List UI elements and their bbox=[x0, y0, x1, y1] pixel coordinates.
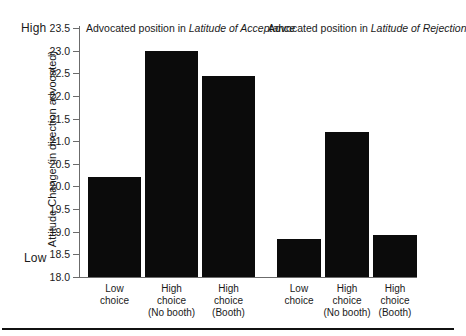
y-tick-label: 22.5 bbox=[44, 68, 70, 79]
y-tick-mark bbox=[73, 186, 79, 187]
x-category-label-line: (Booth) bbox=[194, 307, 264, 319]
y-tick-label: 19.0 bbox=[44, 227, 70, 238]
x-axis-line bbox=[79, 277, 417, 278]
y-tick-mark bbox=[73, 119, 79, 120]
y-tick-label: 23.5 bbox=[44, 23, 70, 34]
x-category-label-line: High bbox=[360, 283, 430, 295]
y-tick-mark bbox=[73, 141, 79, 142]
y-tick-mark bbox=[73, 164, 79, 165]
y-tick-mark bbox=[73, 96, 79, 97]
group-title-acceptance-prefix: Advocated position in bbox=[86, 22, 189, 34]
group-title-rejection-prefix: Advocated position in bbox=[268, 22, 371, 34]
y-tick-mark bbox=[73, 73, 79, 74]
y-axis-high-label: High bbox=[21, 21, 46, 35]
y-tick-label: 20.0 bbox=[44, 181, 70, 192]
bar bbox=[277, 239, 321, 277]
y-tick-mark bbox=[73, 28, 79, 29]
bar bbox=[325, 132, 369, 277]
y-tick-mark bbox=[73, 232, 79, 233]
group-title-rejection: Advocated position in Latitude of Reject… bbox=[268, 22, 466, 34]
x-category-label: Highchoice(Booth) bbox=[194, 283, 264, 319]
bar bbox=[202, 76, 255, 277]
bar bbox=[145, 51, 198, 277]
y-tick-label: 20.5 bbox=[44, 159, 70, 170]
y-axis-title: Attitude Change (in direction advocated) bbox=[46, 19, 58, 279]
bottom-rule bbox=[2, 328, 454, 330]
x-category-label-line: (Booth) bbox=[360, 307, 430, 319]
y-tick-label: 22.0 bbox=[44, 91, 70, 102]
group-title-acceptance: Advocated position in Latitude of Accept… bbox=[86, 22, 295, 34]
y-tick-label: 21.5 bbox=[44, 114, 70, 125]
y-tick-label: 23.0 bbox=[44, 46, 70, 57]
y-axis-line bbox=[79, 26, 80, 278]
x-category-label: Highchoice(Booth) bbox=[360, 283, 430, 319]
y-tick-mark bbox=[73, 254, 79, 255]
y-tick-mark bbox=[73, 277, 79, 278]
y-tick-label: 18.5 bbox=[44, 249, 70, 260]
bar bbox=[88, 177, 141, 277]
y-tick-mark bbox=[73, 209, 79, 210]
y-tick-label: 19.5 bbox=[44, 204, 70, 215]
group-title-rejection-emphasis: Latitude of Rejection bbox=[371, 22, 466, 34]
y-tick-label: 21.0 bbox=[44, 136, 70, 147]
bar bbox=[373, 235, 417, 277]
x-category-label-line: High bbox=[194, 283, 264, 295]
y-tick-mark bbox=[73, 51, 79, 52]
x-category-label-line: choice bbox=[360, 295, 430, 307]
y-tick-label: 18.0 bbox=[44, 272, 70, 283]
x-category-label-line: choice bbox=[194, 295, 264, 307]
